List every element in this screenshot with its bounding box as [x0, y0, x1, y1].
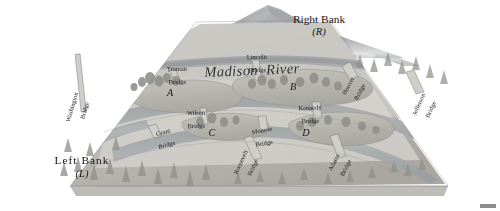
bridge-line-1: Adams	[327, 152, 341, 171]
bridge-line-2: Bridge	[339, 158, 353, 177]
river-map-figure: Right Bank (R) Left Bank (L) Madison Riv…	[0, 0, 500, 211]
bridge-label-truman: Truman Bridge	[152, 59, 195, 93]
right-bank-symbol: (R)	[273, 27, 365, 38]
bridge-label-lincoln: Lincoln Bridge	[232, 47, 275, 81]
right-bank-label: Right Bank	[273, 14, 365, 26]
left-bank-label: Left Bank	[30, 155, 134, 167]
bridge-line-2: Bridge	[188, 122, 206, 130]
bridge-line-1: Lincoln	[247, 53, 267, 61]
bridge-label-kennedy: Kennedy Bridge	[283, 98, 330, 132]
island-label-b: B	[285, 82, 301, 92]
bridge-line-2: Bridge	[169, 78, 187, 86]
bridge-line-1: Washington	[64, 91, 79, 122]
bridge-line-2: Bridge	[246, 158, 259, 177]
bridge-line-2: Bridge	[352, 83, 366, 102]
bridge-line-2: Bridge	[249, 66, 267, 74]
bridge-line-1: Grant	[155, 127, 171, 138]
bridge-line-2: Bridge	[79, 101, 91, 120]
corner-mark	[480, 204, 496, 208]
bridge-line-1: Kennedy	[298, 104, 321, 112]
bridge-line-1: Wilson	[187, 109, 205, 117]
bridge-line-2: Bridge	[157, 139, 176, 151]
left-bank-symbol: (L)	[30, 169, 134, 180]
bridge-line-1: Monroe	[251, 125, 272, 135]
bridge-line-2: Bridge	[424, 100, 437, 119]
bridge-line-1: Truman	[167, 65, 187, 73]
bridge-line-2: Bridge	[302, 117, 320, 125]
